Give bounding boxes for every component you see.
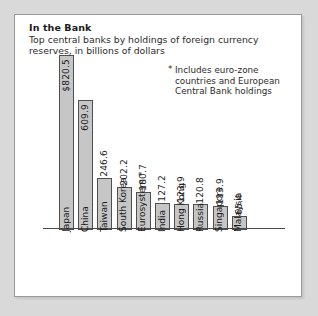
bar-value-label: $820.5 (61, 59, 71, 92)
x-axis-label: Taiwan (99, 201, 109, 232)
chart-panel: In the Bank Top central banks by holding… (14, 14, 302, 297)
page-title: In the Bank (29, 22, 92, 33)
x-axis-label: South Korea (118, 177, 128, 232)
x-axis-label: Malaysia (233, 193, 243, 232)
x-axis-label: Hong Kong (176, 183, 186, 232)
bar-value-label: 246.6 (99, 150, 109, 177)
bar-japan: $820.5 (59, 55, 74, 230)
x-axis-label: Singapore (214, 187, 224, 232)
x-axis-label: India (157, 210, 167, 232)
bar-value-label: 127.2 (157, 175, 167, 202)
bar-chart-plot: $820.5609.9246.6202.2180.7127.2123.9120.… (43, 45, 295, 230)
bar-value-label: 609.9 (80, 104, 90, 131)
bar-value-label: 120.8 (195, 177, 205, 204)
x-axis-label: China (80, 206, 90, 232)
x-axis-label: Russia (195, 203, 205, 232)
x-axis-label: Japan (61, 207, 71, 232)
x-axis-label: Eurosystem * (137, 172, 147, 232)
